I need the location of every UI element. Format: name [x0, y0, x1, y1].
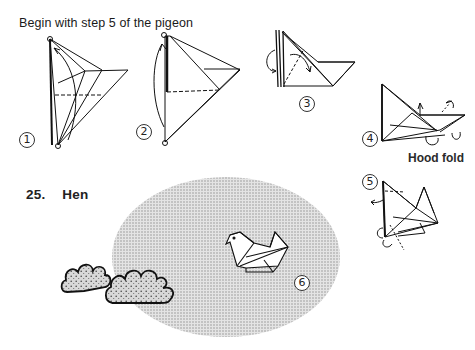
diagram-step-4: [382, 84, 465, 145]
step-number-6: 6: [294, 275, 310, 291]
step-number-2: 2: [136, 124, 152, 140]
bush-left: [62, 265, 111, 292]
step-number-3: 3: [299, 96, 315, 112]
diagram-step-5: [371, 181, 438, 250]
step-number-4: 4: [362, 131, 378, 147]
background-ellipse: [112, 177, 340, 337]
origami-diagrams: [0, 0, 475, 350]
diagram-step-3: [267, 30, 355, 87]
diagram-step-2: [154, 33, 240, 146]
diagram-step-1: [48, 37, 129, 149]
step-number-1: 1: [19, 132, 35, 148]
step-number-5: 5: [362, 174, 378, 190]
hood-fold-label: Hood fold: [408, 151, 464, 165]
